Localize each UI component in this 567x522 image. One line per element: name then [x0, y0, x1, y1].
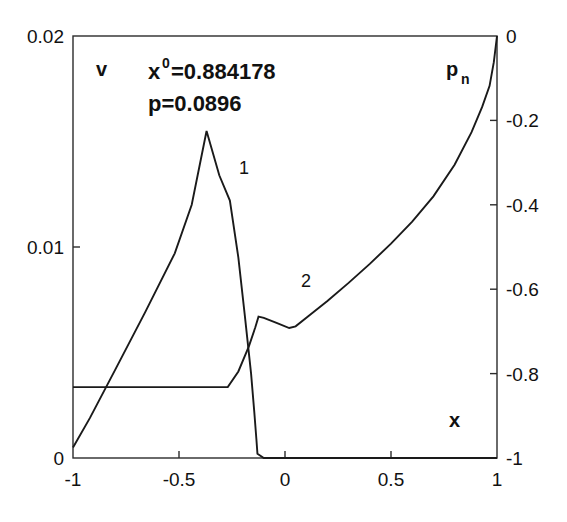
curve-1-label: 1 [239, 158, 249, 178]
curve-series-1 [73, 131, 497, 458]
y-left-axis-tick-labels: 00.010.02 [27, 26, 64, 469]
x-axis-ticks [179, 451, 391, 458]
y-right-tick-label: -0.6 [506, 279, 539, 300]
y-right-tick-label: -0.4 [506, 195, 539, 216]
curve-2-label: 2 [301, 271, 311, 291]
y-right-tick-label: -0.2 [506, 110, 539, 131]
y-left-tick-label: 0.02 [27, 26, 64, 47]
p-annotation: p=0.0896 [148, 91, 242, 116]
x-tick-label: -0.5 [163, 469, 196, 490]
plot-frame [73, 36, 497, 458]
curve-series-2 [73, 36, 497, 387]
y-right-axis-ticks [490, 120, 497, 373]
y-right-tick-label: -0.8 [506, 364, 539, 385]
left-axis-label: v [96, 58, 108, 80]
y-left-tick-label: 0 [53, 448, 64, 469]
x-tick-label: 1 [492, 469, 503, 490]
y-right-tick-label: -1 [506, 448, 523, 469]
y-right-tick-label: 0 [506, 26, 517, 47]
x0-annotation-value: =0.884178 [171, 59, 276, 84]
x0-annotation-base: x [148, 59, 161, 84]
figure-container: -1-0.500.51 00.010.02 -1-0.8-0.6-0.4-0.2… [0, 0, 567, 522]
x-tick-label: 0.5 [378, 469, 404, 490]
y-left-tick-label: 0.01 [27, 237, 64, 258]
line-chart: -1-0.500.51 00.010.02 -1-0.8-0.6-0.4-0.2… [0, 0, 567, 522]
right-axis-label-base: p [446, 58, 458, 80]
bottom-axis-label: x [449, 409, 460, 431]
x-tick-label: 0 [280, 469, 291, 490]
x-tick-label: -1 [65, 469, 82, 490]
x-axis-tick-labels: -1-0.500.51 [65, 469, 503, 490]
right-axis-label-sub: n [461, 71, 470, 87]
y-right-axis-tick-labels: -1-0.8-0.6-0.4-0.20 [506, 26, 539, 469]
x0-annotation-superscript: 0 [162, 55, 170, 71]
